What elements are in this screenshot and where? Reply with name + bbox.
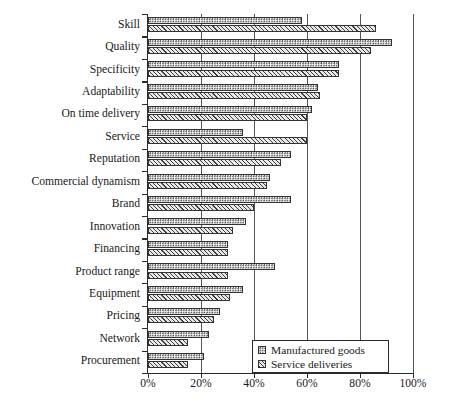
bar-service-deliveries	[148, 204, 254, 211]
legend-item-manufactured-goods: Manufactured goods	[258, 343, 384, 357]
legend-label-service-deliveries: Service deliveries	[271, 358, 352, 370]
x-axis-line	[147, 373, 414, 374]
x-tick-mark	[307, 373, 308, 378]
bar-manufactured-goods	[148, 17, 302, 24]
x-tick-label: 20%	[190, 377, 211, 390]
bar-service-deliveries	[148, 92, 320, 99]
bar-manufactured-goods	[148, 353, 204, 360]
plot-area	[148, 14, 413, 373]
category-label: Reputation	[0, 153, 143, 165]
category-label: Commercial dynamism	[0, 176, 143, 188]
category-label: Network	[0, 333, 143, 345]
bar-manufactured-goods	[148, 218, 246, 225]
legend-item-service-deliveries: Service deliveries	[258, 357, 384, 371]
category-label: Procurement	[0, 355, 143, 367]
legend-label-manufactured-goods: Manufactured goods	[271, 344, 365, 356]
bar-manufactured-goods	[148, 263, 275, 270]
bar-service-deliveries	[148, 294, 230, 301]
bar-service-deliveries	[148, 47, 371, 54]
bar-service-deliveries	[148, 272, 228, 279]
bar-service-deliveries	[148, 339, 188, 346]
bar-service-deliveries	[148, 137, 307, 144]
bar-service-deliveries	[148, 361, 188, 368]
category-label: Quality	[0, 41, 143, 53]
category-label: Equipment	[0, 288, 143, 300]
x-tick-label: 100%	[399, 377, 426, 390]
category-label: Financing	[0, 243, 143, 255]
legend-swatch-dotted-icon	[258, 346, 266, 354]
bar-service-deliveries	[148, 114, 307, 121]
bar-service-deliveries	[148, 182, 267, 189]
x-tick-label: 0%	[140, 377, 155, 390]
bar-service-deliveries	[148, 249, 228, 256]
bar-manufactured-goods	[148, 286, 243, 293]
category-label: Brand	[0, 198, 143, 210]
chart-legend: Manufactured goods Service deliveries	[252, 340, 389, 373]
bar-manufactured-goods	[148, 331, 209, 338]
bar-manufactured-goods	[148, 129, 243, 136]
bar-manufactured-goods	[148, 39, 392, 46]
category-label: Innovation	[0, 221, 143, 233]
x-tick-mark	[148, 373, 149, 378]
x-tick-mark	[254, 373, 255, 378]
category-label: Pricing	[0, 310, 143, 322]
bar-manufactured-goods	[148, 151, 291, 158]
bar-service-deliveries	[148, 227, 233, 234]
x-tick-label: 80%	[349, 377, 370, 390]
category-label: Product range	[0, 266, 143, 278]
bar-manufactured-goods	[148, 106, 312, 113]
category-axis-labels: SkillQualitySpecificityAdaptabilityOn ti…	[0, 14, 143, 373]
category-label: Adaptability	[0, 86, 143, 98]
bar-manufactured-goods	[148, 241, 228, 248]
legend-swatch-hatched-icon	[258, 360, 266, 368]
category-label: On time delivery	[0, 108, 143, 120]
category-label: Skill	[0, 19, 143, 31]
category-label: Specificity	[0, 64, 143, 76]
x-tick-label: 60%	[296, 377, 317, 390]
bar-manufactured-goods	[148, 61, 339, 68]
bar-manufactured-goods	[148, 84, 318, 91]
gridline-100	[413, 14, 414, 373]
x-tick-mark	[201, 373, 202, 378]
bar-service-deliveries	[148, 316, 214, 323]
x-tick-mark	[360, 373, 361, 378]
bar-service-deliveries	[148, 25, 376, 32]
bar-service-deliveries	[148, 70, 339, 77]
bar-manufactured-goods	[148, 308, 220, 315]
bar-manufactured-goods	[148, 174, 270, 181]
x-tick-label: 40%	[243, 377, 264, 390]
x-tick-mark	[413, 373, 414, 378]
horizontal-bar-chart: SkillQualitySpecificityAdaptabilityOn ti…	[0, 0, 449, 418]
category-label: Service	[0, 131, 143, 143]
bar-service-deliveries	[148, 159, 281, 166]
bar-manufactured-goods	[148, 196, 291, 203]
